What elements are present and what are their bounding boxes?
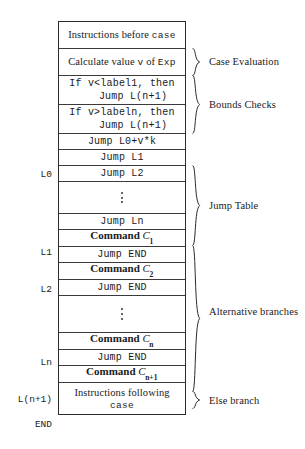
row-label-l0: L0 <box>41 170 52 180</box>
annotation-jump-table: Jump Table <box>209 200 258 211</box>
row-text-exp: Exp <box>158 57 176 68</box>
row-line-1: Jump END <box>97 351 147 364</box>
command-subscript: n+1 <box>145 373 157 382</box>
row-text: Instructions before case <box>68 28 176 42</box>
command-word: Command <box>90 230 140 241</box>
annotation-alternative-branches: Alternative branches <box>209 306 298 317</box>
row-line-1: Jump L1 <box>100 151 143 164</box>
row-line-1: Jump L0+v*k <box>88 135 156 148</box>
annotation-bounds-checks: Bounds Checks <box>209 99 276 110</box>
vertical-ellipsis-icon <box>121 306 123 322</box>
row-label-ln1: L(n+1) <box>18 395 52 405</box>
brace-alternative-branches <box>191 245 202 392</box>
annotation-else-branch: Else branch <box>209 395 259 406</box>
row-jump-table-ellipsis <box>59 182 185 214</box>
row-jump-end-2: Jump END <box>59 280 185 296</box>
row-instructions-before-case: Instructions before case <box>59 22 185 49</box>
row-line-1: Instructions following <box>74 386 169 399</box>
row-line-1: If v>labeln, then <box>69 106 174 119</box>
row-text: Command C1 <box>90 230 153 247</box>
row-lower-bound-check: If v<label1, then Jump L(n+1) <box>59 76 185 105</box>
row-line-2: case <box>110 399 134 412</box>
command-subscript: n <box>149 340 153 349</box>
row-line-1: Jump END <box>97 248 147 261</box>
brace-jump-table <box>191 165 202 246</box>
row-label-l2: L2 <box>41 285 52 295</box>
row-branches-ellipsis <box>59 296 185 333</box>
row-label-gutter: L0 L1 L2 Ln L(n+1) END <box>0 0 56 449</box>
brace-case-evaluation <box>191 48 202 76</box>
annotation-column: Case Evaluation Bounds Checks Jump Table… <box>186 0 305 449</box>
row-command-c1: Command C1 <box>59 230 185 247</box>
command-word: Command <box>90 333 140 344</box>
case-statement-diagram: L0 L1 L2 Ln L(n+1) END Instructions befo… <box>0 0 305 449</box>
command-subscript: 2 <box>149 270 153 279</box>
row-text-serif: Calculate value <box>68 56 137 67</box>
row-text: Calculate value v of Exp <box>68 55 176 69</box>
row-label-end: END <box>35 420 52 430</box>
row-text: Command Cn+1 <box>86 366 158 383</box>
row-jump-end-n: Jump END <box>59 350 185 366</box>
row-line-1: If v<label1, then <box>69 77 174 90</box>
row-label-l1: L1 <box>41 248 52 258</box>
row-text-serif-2: of <box>143 56 157 67</box>
row-upper-bound-check: If v>labeln, then Jump L(n+1) <box>59 105 185 134</box>
row-text-keyword: case <box>152 30 176 41</box>
row-command-c2: Command C2 <box>59 263 185 280</box>
vertical-ellipsis-icon <box>121 189 123 205</box>
row-line-2: Jump L(n+1) <box>77 90 167 103</box>
command-word: Command <box>86 366 136 377</box>
row-text: Command C2 <box>90 263 153 280</box>
instruction-sequence-box: Instructions before case Calculate value… <box>58 21 186 415</box>
row-indexed-jump: Jump L0+v*k <box>59 134 185 150</box>
row-text-serif: Instructions before <box>68 29 152 40</box>
row-instructions-following-case: Instructions following case <box>59 383 185 414</box>
brace-bounds-checks <box>191 75 202 134</box>
annotation-case-evaluation: Case Evaluation <box>209 56 279 67</box>
row-line-1: Jump Ln <box>100 215 143 228</box>
row-jump-end-1: Jump END <box>59 247 185 263</box>
row-calculate-value: Calculate value v of Exp <box>59 49 185 76</box>
command-word: Command <box>90 263 140 274</box>
row-jump-l2: Jump L2 <box>59 166 185 182</box>
row-line-1: Jump L2 <box>100 167 143 180</box>
command-subscript: 1 <box>149 237 153 246</box>
row-label-ln: Ln <box>41 358 52 368</box>
row-line-1: Jump END <box>97 281 147 294</box>
row-command-cn: Command Cn <box>59 333 185 350</box>
row-text: Command Cn <box>90 333 154 350</box>
row-jump-l1: Jump L1 <box>59 150 185 166</box>
row-jump-ln: Jump Ln <box>59 214 185 230</box>
row-line-2: Jump L(n+1) <box>77 119 167 132</box>
brace-else-branch <box>191 391 202 409</box>
row-command-cn1: Command Cn+1 <box>59 366 185 383</box>
